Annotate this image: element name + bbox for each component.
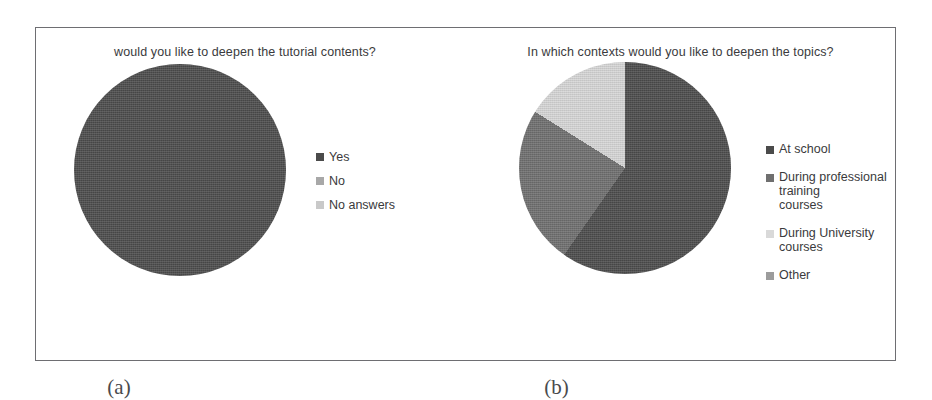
legend-label-professional-training: During professional training courses bbox=[779, 170, 895, 212]
legend-item-no-answers[interactable]: No answers bbox=[316, 194, 395, 216]
legend-label-at-school: At school bbox=[779, 142, 830, 156]
legend-swatch-yes bbox=[316, 153, 324, 161]
chart-a-legend: Yes No No answers bbox=[316, 146, 395, 218]
figure-frame: would you like to deepen the tutorial co… bbox=[35, 27, 896, 361]
legend-item-university-courses[interactable]: During University courses bbox=[766, 226, 895, 254]
legend-item-professional-training[interactable]: During professional training courses bbox=[766, 170, 895, 212]
legend-item-other[interactable]: Other bbox=[766, 268, 895, 282]
legend-swatch-university-courses bbox=[766, 230, 774, 238]
legend-swatch-no-answers bbox=[316, 201, 324, 209]
pie-chart-b bbox=[519, 62, 731, 274]
chart-a-title: would you like to deepen the tutorial co… bbox=[30, 45, 460, 59]
legend-swatch-other bbox=[766, 272, 774, 280]
chart-b-title: In which contexts would you like to deep… bbox=[466, 45, 895, 59]
subfigure-caption-b: (b) bbox=[342, 375, 771, 400]
legend-label-yes: Yes bbox=[329, 150, 349, 164]
chart-panel-a: would you like to deepen the tutorial co… bbox=[36, 28, 466, 360]
legend-swatch-professional-training bbox=[766, 174, 774, 182]
pie-chart-a bbox=[74, 64, 286, 276]
legend-item-no[interactable]: No bbox=[316, 170, 395, 192]
legend-label-university-courses: During University courses bbox=[779, 226, 895, 254]
legend-item-yes[interactable]: Yes bbox=[316, 146, 395, 168]
pie-b-texture bbox=[519, 62, 731, 274]
legend-label-other: Other bbox=[779, 268, 810, 282]
legend-item-at-school[interactable]: At school bbox=[766, 142, 895, 156]
subfigure-caption-a: (a) bbox=[0, 375, 334, 400]
chart-panel-b: In which contexts would you like to deep… bbox=[466, 28, 895, 360]
legend-swatch-at-school bbox=[766, 146, 774, 154]
chart-b-legend: At school During professional training c… bbox=[766, 142, 895, 296]
legend-swatch-no bbox=[316, 177, 324, 185]
legend-label-no-answers: No answers bbox=[329, 198, 395, 212]
pie-a-texture bbox=[74, 64, 286, 276]
legend-label-no: No bbox=[329, 174, 345, 188]
